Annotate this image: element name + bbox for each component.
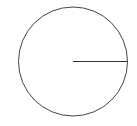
circle-diagram — [0, 0, 137, 126]
